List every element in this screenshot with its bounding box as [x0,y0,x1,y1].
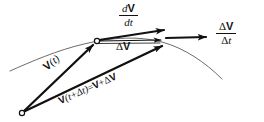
v-vector-symbol: V [123,40,130,52]
fraction-delta-v-delta-t: ΔV Δt [216,21,236,46]
label-delta-v-over-delta-t: ΔV Δt [216,21,236,46]
tangent-point [94,38,99,43]
t-symbol: t [130,16,133,28]
fraction-numerator: dV [119,3,138,14]
origin-point [19,110,24,115]
v-vector-symbol: V [226,20,233,32]
fraction-denominator: dt [119,17,138,28]
vector-delta-v-over-delta-t [166,37,206,38]
t-symbol: t [228,34,231,46]
fraction-denominator: Δt [216,35,236,46]
vector-v-of-t [23,45,93,112]
velocity-vector-diagram: dV dt ΔV Δt ΔV V(t) V(t+Δt)=V+ΔV [0,0,264,122]
label-dvdt: dV dt [119,3,138,28]
vector-dvdt [99,30,164,40]
label-delta-v: ΔV [116,41,130,52]
fraction-dvdt: dV dt [119,3,138,28]
fraction-numerator: ΔV [216,21,236,32]
v-vector-symbol: V [128,2,135,14]
